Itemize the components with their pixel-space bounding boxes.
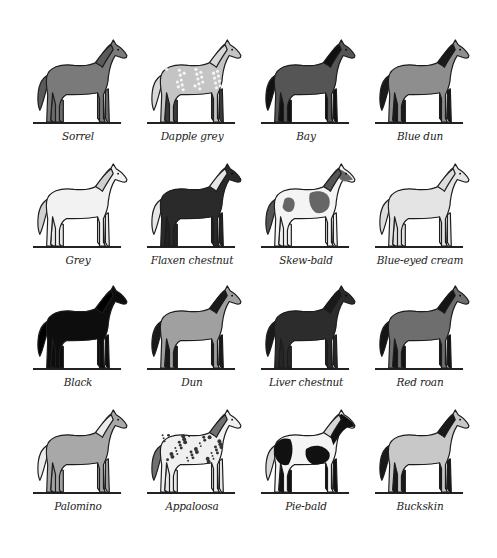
coat-color-label: Blue dun [363,130,477,142]
horse-silhouette-icon [27,282,129,372]
coat-color-label: Dun [135,376,249,388]
horse-silhouette-icon [27,36,129,126]
horse-silhouette-icon [369,36,471,126]
coat-color-label: Flaxen chestnut [135,254,249,266]
horse-silhouette-icon [27,160,129,250]
coat-color-label: Buckskin [363,500,477,512]
horse-illustration: Sorrel [21,36,135,154]
horse-illustration: Dun [135,282,249,400]
horse-illustration: Red roan [363,282,477,400]
coat-color-label: Pie-bald [249,500,363,512]
horse-illustration: Blue-eyed cream [363,160,477,278]
coat-color-label: Dapple grey [135,130,249,142]
horse-illustration: Liver chestnut [249,282,363,400]
horse-illustration: Buckskin [363,406,477,524]
horse-illustration: Black [21,282,135,400]
horse-illustration: Flaxen chestnut [135,160,249,278]
coat-color-label: Bay [249,130,363,142]
horse-illustration: Skew-bald [249,160,363,278]
horse-silhouette-icon [141,282,243,372]
coat-color-label: Palomino [21,500,135,512]
coat-color-label: Liver chestnut [249,376,363,388]
horse-silhouette-icon [255,406,357,496]
horse-silhouette-icon [255,36,357,126]
horse-silhouette-icon [369,160,471,250]
coat-color-label: Black [21,376,135,388]
coat-color-label: Appaloosa [135,500,249,512]
horse-illustration: Grey [21,160,135,278]
horse-illustration: Appaloosa [135,406,249,524]
horse-coat-colors-chart: Sorrel Dapple grey Bay [0,0,497,558]
horse-illustration: Dapple grey [135,36,249,154]
horse-silhouette-icon [27,406,129,496]
horse-illustration: Blue dun [363,36,477,154]
horse-illustration: Bay [249,36,363,154]
coat-color-label: Sorrel [21,130,135,142]
horse-silhouette-icon [255,160,357,250]
horse-silhouette-icon [141,36,243,126]
horse-illustration: Pie-bald [249,406,363,524]
horse-illustration: Palomino [21,406,135,524]
coat-color-label: Red roan [363,376,477,388]
coat-color-label: Blue-eyed cream [363,254,477,266]
horse-silhouette-icon [141,406,243,496]
horse-silhouette-icon [369,406,471,496]
horse-silhouette-icon [369,282,471,372]
horse-silhouette-icon [141,160,243,250]
coat-color-label: Skew-bald [249,254,363,266]
horse-silhouette-icon [255,282,357,372]
coat-color-label: Grey [21,254,135,266]
